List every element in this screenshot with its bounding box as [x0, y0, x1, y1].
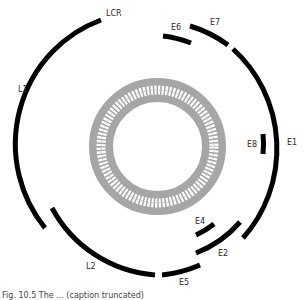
label-l1: L1 — [18, 86, 28, 94]
arc-l1 — [15, 20, 101, 228]
label-lcr: LCR — [106, 10, 122, 18]
center-ring — [101, 90, 214, 203]
label-e4: E4 — [195, 218, 205, 226]
arc-segments — [15, 20, 277, 275]
figure-caption: Fig. 10.5 The ... (caption truncated) — [2, 291, 144, 300]
center-ring-band — [101, 90, 214, 203]
label-l2: L2 — [86, 263, 96, 271]
arc-e7 — [190, 26, 228, 45]
label-e8: E8 — [247, 141, 257, 149]
label-e6: E6 — [171, 24, 181, 32]
arc-e5 — [162, 265, 200, 275]
label-e7: E7 — [210, 19, 220, 27]
arc-e8 — [263, 134, 264, 154]
label-e5: E5 — [179, 279, 189, 287]
arc-l2 — [52, 208, 155, 275]
label-e2: E2 — [218, 250, 228, 258]
label-e1: E1 — [287, 139, 297, 147]
arc-e6 — [163, 36, 191, 43]
